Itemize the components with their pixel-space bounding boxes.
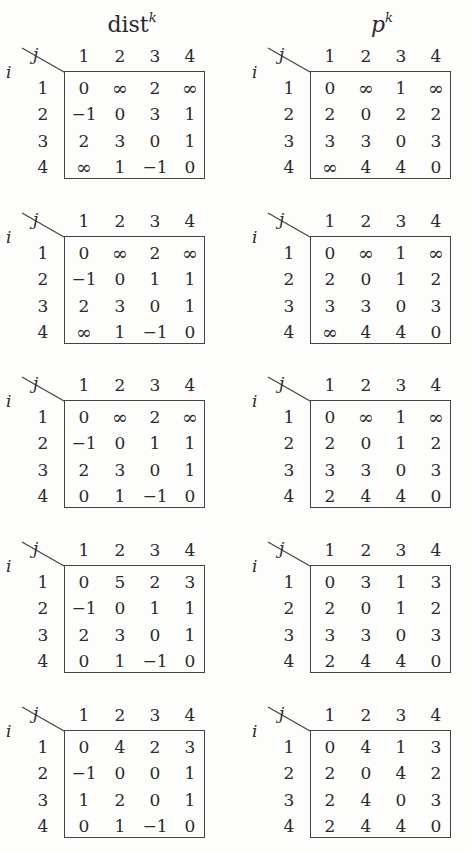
matrix-cell: 3 (172, 737, 208, 757)
row-header: 4 (28, 651, 58, 671)
matrix-cell: 3 (418, 790, 454, 810)
matrix-cell: 4 (102, 737, 138, 757)
matrix-cell: 2 (312, 269, 348, 289)
matrix-cell: 0 (418, 322, 454, 342)
matrix-cell: 2 (383, 104, 419, 124)
row-header: 1 (28, 572, 58, 592)
matrix-cell: ∞ (312, 321, 348, 343)
row-header: 4 (274, 322, 304, 342)
matrix-cell: 1 (66, 790, 102, 810)
column-header: 1 (66, 46, 102, 66)
column-header: 2 (102, 46, 138, 66)
column-header: 1 (66, 540, 102, 560)
matrix-cell: 0 (348, 598, 384, 618)
matrix-cell: 0 (383, 625, 419, 645)
matrix-cell: 1 (383, 78, 419, 98)
row-axis-label: i (6, 227, 11, 247)
row-header: 4 (28, 157, 58, 177)
matrix-cell: 1 (172, 625, 208, 645)
row-axis-label: i (252, 721, 257, 741)
matrix-cell: 0 (66, 816, 102, 836)
row-header: 4 (274, 816, 304, 836)
column-header: 4 (418, 375, 454, 395)
matrix-cell: 2 (137, 737, 173, 757)
matrix-cell: 1 (172, 763, 208, 783)
row-header: 2 (28, 269, 58, 289)
matrix-cell: 0 (66, 651, 102, 671)
matrix-cell: 0 (102, 763, 138, 783)
matrix-cell: 3 (418, 296, 454, 316)
matrix-cell: ∞ (418, 406, 454, 428)
matrix-cell: 4 (348, 486, 384, 506)
matrix-cell: 1 (102, 486, 138, 506)
p-matrix-5: i j 123410413220423240342440 (250, 705, 450, 845)
matrix-cell: 1 (383, 433, 419, 453)
matrix-cell: 1 (383, 407, 419, 427)
matrix-cell: 1 (383, 598, 419, 618)
column-header: 2 (102, 375, 138, 395)
column-header: 1 (312, 540, 348, 560)
col-axis-label: j (279, 209, 284, 229)
col-axis-label: j (33, 538, 38, 558)
matrix-cell: ∞ (66, 156, 102, 178)
matrix-cell: 0 (312, 407, 348, 427)
row-axis-label: i (6, 721, 11, 741)
matrix-cell: 4 (348, 816, 384, 836)
column-header: 2 (102, 211, 138, 231)
matrix-cell: ∞ (418, 77, 454, 99)
row-header: 3 (28, 131, 58, 151)
matrix-cell: 3 (137, 104, 173, 124)
row-header: 3 (274, 625, 304, 645)
column-header: 3 (137, 211, 173, 231)
column-header: 3 (383, 375, 419, 395)
column-header: 1 (312, 46, 348, 66)
matrix-cell: 2 (66, 131, 102, 151)
row-header: 3 (274, 790, 304, 810)
row-axis-label: i (6, 391, 11, 411)
matrix-cell: 4 (348, 322, 384, 342)
matrix-cell: 1 (383, 269, 419, 289)
matrix-cell: 3 (312, 625, 348, 645)
matrix-cell: 2 (312, 104, 348, 124)
matrix-cell: 3 (418, 460, 454, 480)
matrix-cell: 2 (312, 651, 348, 671)
matrix-cell: 0 (137, 790, 173, 810)
matrix-cell: 3 (312, 131, 348, 151)
matrix-cell: −1 (137, 651, 173, 671)
p-title-sup: k (385, 10, 393, 25)
matrix-cell: 3 (418, 737, 454, 757)
matrix-cell: 2 (418, 104, 454, 124)
matrix-cell: 0 (137, 296, 173, 316)
row-header: 4 (274, 157, 304, 177)
matrix-cell: 2 (312, 486, 348, 506)
row-header: 2 (274, 269, 304, 289)
p-matrix-3: i j 123410∞1∞220123330342440 (250, 375, 450, 515)
matrix-cell: 4 (383, 322, 419, 342)
matrix-cell: 1 (172, 790, 208, 810)
dist-title-sup: k (149, 10, 157, 25)
matrix-cell: 2 (312, 816, 348, 836)
matrix-cell: ∞ (348, 406, 384, 428)
matrix-cell: 4 (348, 651, 384, 671)
matrix-cell: 0 (172, 157, 208, 177)
row-header: 1 (274, 572, 304, 592)
matrix-cell: 0 (66, 407, 102, 427)
p-title-base: p (371, 12, 385, 37)
matrix-cell: 0 (418, 486, 454, 506)
matrix-cell: 0 (172, 322, 208, 342)
column-header: 3 (383, 705, 419, 725)
matrix-cell: 0 (383, 296, 419, 316)
matrix-cell: ∞ (66, 321, 102, 343)
matrix-cell: ∞ (102, 242, 138, 264)
matrix-cell: 4 (348, 790, 384, 810)
matrix-cell: 0 (172, 816, 208, 836)
p-matrix-1: i j 123410∞1∞22022333034∞440 (250, 46, 450, 186)
matrix-cell: 3 (348, 460, 384, 480)
column-header: 2 (348, 46, 384, 66)
row-header: 2 (274, 104, 304, 124)
matrix-cell: 4 (383, 157, 419, 177)
matrix-cell: 4 (383, 486, 419, 506)
matrix-cell: 2 (418, 269, 454, 289)
matrix-cell: 0 (102, 104, 138, 124)
row-header: 1 (28, 737, 58, 757)
